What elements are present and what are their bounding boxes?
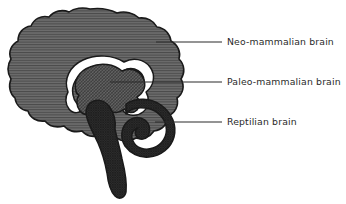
- brain-diagram-figure: Neo-mammalian brain Paleo-mammalian brai…: [0, 0, 346, 204]
- label-paleo-mammalian-brain: Paleo-mammalian brain: [227, 77, 341, 86]
- brain-illustration: [0, 0, 346, 204]
- label-neo-mammalian-brain: Neo-mammalian brain: [227, 37, 334, 46]
- label-reptilian-brain: Reptilian brain: [227, 117, 297, 126]
